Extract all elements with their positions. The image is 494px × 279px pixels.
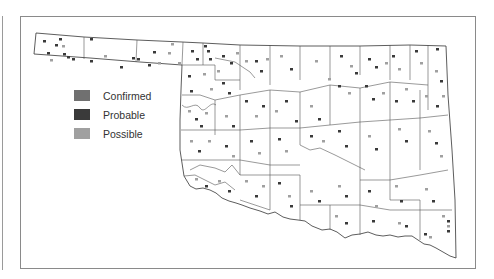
legend-item-possible: Possible — [74, 124, 151, 143]
confirmed-swatch — [74, 90, 90, 101]
legend-label: Probable — [103, 109, 145, 121]
legend-label: Confirmed — [103, 90, 151, 102]
probable-swatch — [74, 109, 90, 120]
state-outline — [34, 33, 456, 258]
legend-item-probable: Probable — [74, 105, 151, 124]
map-legend: Confirmed Probable Possible — [74, 86, 151, 143]
legend-item-confirmed: Confirmed — [74, 86, 151, 105]
possible-swatch — [74, 128, 90, 139]
legend-label: Possible — [103, 128, 143, 140]
